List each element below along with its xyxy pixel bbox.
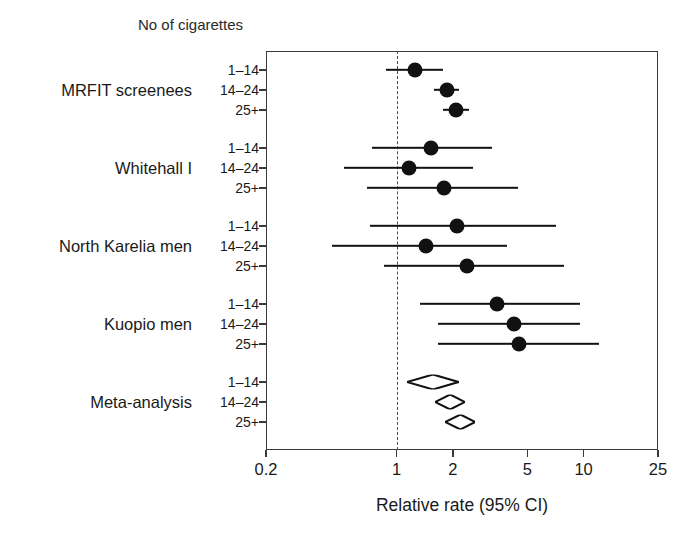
y-tick [259, 401, 266, 403]
dose-label: 25+ [235, 102, 259, 118]
summary-diamond [445, 415, 475, 430]
y-tick [259, 265, 266, 267]
point-estimate-marker [436, 181, 451, 196]
x-tick-label: 0.2 [255, 460, 278, 479]
point-estimate-marker [408, 63, 423, 78]
point-estimate-marker [507, 317, 522, 332]
point-estimate-marker [424, 141, 439, 156]
plot-title: No of cigarettes [138, 16, 243, 33]
point-estimate-marker [460, 259, 475, 274]
null-reference-line [397, 51, 398, 450]
dose-label: 14–24 [220, 394, 259, 410]
point-estimate-marker [418, 239, 433, 254]
y-tick [259, 167, 266, 169]
dose-label: 14–24 [220, 160, 259, 176]
dose-label: 1–14 [228, 374, 259, 390]
dose-label: 25+ [235, 258, 259, 274]
x-tick [396, 450, 398, 457]
dose-label: 14–24 [220, 82, 259, 98]
forest-plot-figure: No of cigarettes MRFIT screeneesWhitehal… [0, 0, 687, 533]
dose-label: 1–14 [228, 296, 259, 312]
y-tick [259, 89, 266, 91]
dose-label: 1–14 [228, 218, 259, 234]
x-tick-label: 1 [392, 460, 401, 479]
y-tick [259, 343, 266, 345]
point-estimate-marker [449, 103, 464, 118]
y-tick [259, 147, 266, 149]
point-estimate-marker [512, 337, 527, 352]
dose-label: 14–24 [220, 316, 259, 332]
study-label: MRFIT screenees [61, 81, 192, 100]
y-tick [259, 245, 266, 247]
x-axis-label: Relative rate (95% CI) [376, 495, 548, 516]
point-estimate-marker [402, 161, 417, 176]
x-tick [452, 450, 454, 457]
study-label: Kuopio men [104, 315, 192, 334]
study-label: North Karelia men [59, 237, 192, 256]
dose-label: 25+ [235, 180, 259, 196]
x-tick-label: 5 [523, 460, 532, 479]
x-tick [527, 450, 529, 457]
study-label: Whitehall I [115, 159, 192, 178]
y-tick [259, 421, 266, 423]
dose-label: 14–24 [220, 238, 259, 254]
y-tick [259, 187, 266, 189]
summary-diamond [407, 375, 459, 390]
summary-diamond [435, 395, 465, 410]
study-label: Meta-analysis [90, 393, 192, 412]
point-estimate-marker [439, 83, 454, 98]
y-tick [259, 109, 266, 111]
x-tick-label: 2 [448, 460, 457, 479]
point-estimate-marker [490, 297, 505, 312]
y-tick [259, 303, 266, 305]
x-tick [657, 450, 659, 457]
x-tick [265, 450, 267, 457]
dose-label: 1–14 [228, 140, 259, 156]
y-tick [259, 225, 266, 227]
y-tick [259, 381, 266, 383]
dose-label: 25+ [235, 336, 259, 352]
x-tick-label: 25 [649, 460, 667, 479]
dose-label: 25+ [235, 414, 259, 430]
point-estimate-marker [449, 219, 464, 234]
x-tick [583, 450, 585, 457]
x-tick-label: 10 [574, 460, 592, 479]
dose-label: 1–14 [228, 62, 259, 78]
y-tick [259, 69, 266, 71]
y-tick [259, 323, 266, 325]
